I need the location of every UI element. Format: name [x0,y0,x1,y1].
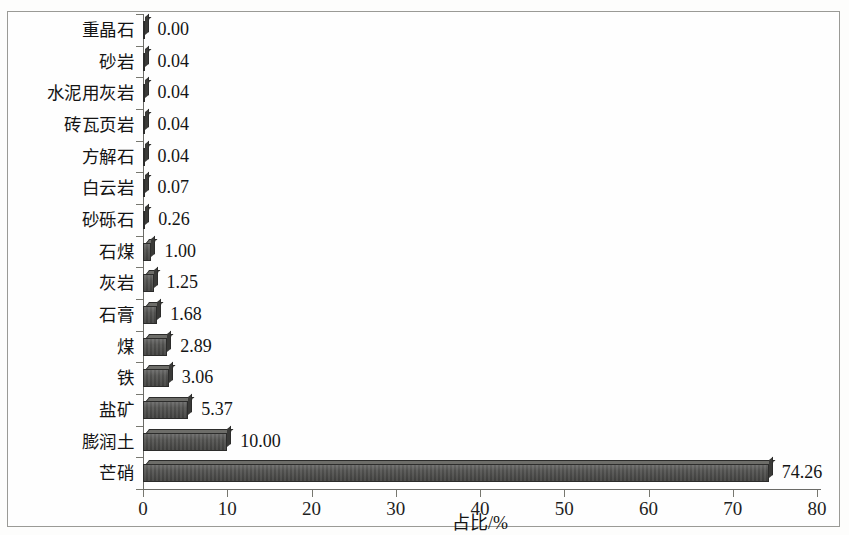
category-tick [136,141,143,142]
x-axis-title-text: 占比/% [452,513,508,533]
bar-value-label: 10.00 [240,431,281,451]
bar [143,274,154,292]
bar [143,306,157,324]
bar-front-face [143,401,188,419]
bar-side-face [145,172,149,193]
bar-value-label: 0.04 [158,146,190,166]
category-tick [136,109,143,110]
bar [143,464,769,482]
category-label: 重晶石 [82,20,135,40]
value-tick [143,490,144,497]
category-tick [136,236,143,237]
bar-front-face [143,464,769,482]
bar [143,401,188,419]
bar-value-label: 0.07 [158,177,190,197]
bar-value-label: 1.00 [164,241,196,261]
category-tick [136,426,143,427]
bar-front-face [143,306,157,324]
bar [143,433,227,451]
category-label: 膨润土 [82,432,135,452]
category-label: 煤 [117,337,135,357]
bar-value-label: 0.04 [158,114,190,134]
category-label: 石煤 [99,242,134,262]
category-tick [136,331,143,332]
bar-value-label: 3.06 [182,367,214,387]
category-label: 砂砾石 [82,210,135,230]
bar-side-face [188,393,192,414]
category-tick [136,299,143,300]
bar [143,21,145,39]
bar [143,211,145,229]
bar-side-face [167,330,171,351]
category-tick [136,46,143,47]
bar-side-face [151,235,155,256]
value-tick [312,490,313,497]
category-label: 灰岩 [99,273,134,293]
bar-front-face [143,369,169,387]
bar [143,369,169,387]
category-tick [136,394,143,395]
x-axis-title: 占比/% [0,513,849,533]
value-tick [227,490,228,497]
bar [143,179,145,197]
value-tick [396,490,397,497]
value-tick [564,490,565,497]
bar-side-face [169,362,173,383]
chart-figure: 重晶石砂岩水泥用灰岩砖瓦页岩方解石白云岩砂砾石石煤灰岩石膏煤铁盐矿膨润土芒硝 0… [0,0,849,535]
category-tick [136,489,143,490]
category-tick [136,172,143,173]
category-label: 方解石 [82,147,135,167]
category-label: 水泥用灰岩 [47,83,135,103]
value-tick [733,490,734,497]
bar-side-face [145,45,149,66]
bar-front-face [143,338,167,356]
bar [143,148,145,166]
bar [143,53,145,71]
category-label: 芒硝 [99,463,134,483]
bar-value-label: 1.68 [170,304,202,324]
bar-value-label: 0.04 [158,51,190,71]
value-tick [480,490,481,497]
bar-value-label: 0.26 [158,209,190,229]
category-label: 砖瓦页岩 [64,115,134,135]
bar-front-face [143,433,227,451]
bar-side-face [769,457,773,478]
bar-value-label: 74.26 [782,462,823,482]
category-label: 砂岩 [99,52,134,72]
bar [143,84,145,102]
bar [143,116,145,134]
value-tick [817,490,818,497]
category-label: 石膏 [99,305,134,325]
bar-value-label: 1.25 [167,272,199,292]
bar [143,338,167,356]
value-axis-line [137,489,821,490]
bar-value-label: 2.89 [180,336,212,356]
category-tick [136,204,143,205]
category-label: 白云岩 [82,178,135,198]
bar-side-face [145,140,149,161]
bar-top-face [146,460,775,464]
bar-value-label: 0.00 [158,19,190,39]
bar-value-label: 5.37 [201,399,233,419]
bar-side-face [154,267,158,288]
bar-front-face [143,274,154,292]
bar-top-face [146,429,234,433]
bar-side-face [145,203,149,224]
bar-side-face [157,298,161,319]
category-label: 盐矿 [99,400,134,420]
value-tick [649,490,650,497]
category-tick [136,362,143,363]
category-tick [136,457,143,458]
category-tick [136,77,143,78]
bar-side-face [145,108,149,129]
bar-side-face [145,77,149,98]
bar [143,243,151,261]
category-tick [136,14,143,15]
bar-value-label: 0.04 [158,82,190,102]
bar-side-face [145,13,149,34]
bar-side-face [227,425,231,446]
category-label: 铁 [117,368,135,388]
category-tick [136,267,143,268]
